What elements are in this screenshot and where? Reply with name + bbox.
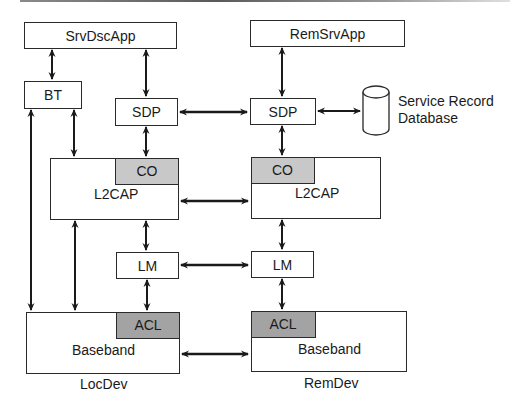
remsrvapp-box: RemSrvApp: [250, 20, 405, 47]
bt-label: BT: [44, 87, 62, 103]
sdp-remote-box: SDP: [250, 98, 316, 125]
srvdscapp-label: SrvDscApp: [65, 28, 135, 44]
bt-box: BT: [24, 81, 82, 109]
l2cap-remote-box: CO L2CAP: [251, 157, 381, 219]
baseband-local-box: ACL Baseband: [26, 312, 180, 374]
l2cap-local-box: CO L2CAP: [50, 158, 179, 220]
sdp-remote-label: SDP: [269, 104, 298, 120]
database-icon: [360, 84, 392, 138]
acl-local-label: ACL: [134, 317, 161, 333]
co-local-box: CO: [115, 158, 179, 185]
co-local-label: CO: [137, 163, 158, 179]
remdev-label: RemDev: [304, 375, 358, 391]
co-remote-box: CO: [251, 157, 315, 184]
database-label-line2: Database: [398, 110, 458, 126]
co-remote-label: CO: [272, 162, 293, 178]
baseband-remote-label: Baseband: [298, 341, 361, 357]
baseband-local-label: Baseband: [72, 342, 135, 358]
srvdscapp-box: SrvDscApp: [24, 22, 177, 49]
sdp-local-label: SDP: [132, 104, 161, 120]
acl-remote-box: ACL: [251, 311, 316, 338]
acl-local-box: ACL: [116, 312, 180, 339]
lm-local-box: LM: [116, 252, 179, 279]
l2cap-remote-label: L2CAP: [295, 185, 339, 201]
sdp-local-box: SDP: [115, 98, 178, 126]
baseband-remote-box: ACL Baseband: [251, 311, 407, 372]
lm-remote-box: LM: [251, 251, 314, 278]
acl-remote-label: ACL: [269, 316, 296, 332]
lm-remote-label: LM: [273, 257, 292, 273]
remsrvapp-label: RemSrvApp: [290, 26, 365, 42]
database-label-line1: Service Record: [398, 93, 494, 109]
lm-local-label: LM: [138, 258, 157, 274]
l2cap-local-label: L2CAP: [94, 186, 138, 202]
locdev-label: LocDev: [80, 376, 127, 392]
